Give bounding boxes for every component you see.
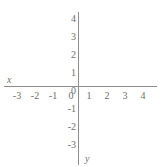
x-tick-label: 4 — [134, 91, 152, 101]
y-tick-label: 3 — [58, 32, 76, 42]
coordinate-plane-figure: x y -3-2-101234 43210-1-2-3 — [0, 0, 162, 167]
x-tick-label: -3 — [8, 91, 26, 101]
x-axis-line — [4, 86, 157, 87]
y-axis-label: y — [85, 154, 89, 164]
y-axis-line — [78, 12, 79, 165]
y-tick-label: -2 — [58, 122, 76, 132]
x-axis-label: x — [7, 75, 11, 85]
x-tick-label: 3 — [116, 91, 134, 101]
x-tick-label: 2 — [98, 91, 116, 101]
y-tick-label: -3 — [58, 140, 76, 150]
y-tick-label: 4 — [58, 14, 76, 24]
y-tick-label: 2 — [58, 50, 76, 60]
y-tick-label: -1 — [58, 104, 76, 114]
y-tick-label: 1 — [58, 68, 76, 78]
x-tick-label: 1 — [80, 91, 98, 101]
x-tick-label: -2 — [26, 91, 44, 101]
y-tick-label: 0 — [58, 86, 76, 96]
